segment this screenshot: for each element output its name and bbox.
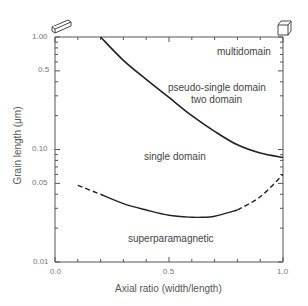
spm-sd-boundary-dashed-right	[237, 174, 283, 210]
x-tick-0.5: 0.5	[163, 267, 174, 276]
y-tick-0.1: 0.10	[32, 144, 48, 153]
cube-icon	[278, 21, 291, 35]
y-tick-0.01: 0.01	[33, 257, 49, 266]
x-tick-0: 0.0	[50, 267, 61, 276]
region-superparamagnetic: superparamagnetic	[128, 233, 214, 244]
region-two-domain: two domain	[191, 94, 242, 105]
spm-sd-boundary-curve	[101, 194, 238, 217]
spm-sd-boundary-dashed-left	[78, 185, 101, 194]
y-axis-title: Grain length (μm)	[12, 101, 23, 191]
x-tick-1: 1.0	[277, 267, 288, 276]
elongated-prism-icon	[52, 20, 71, 33]
y-tick-0.05: 0.05	[32, 178, 48, 187]
x-axis-title: Axial ratio (width/length)	[115, 283, 222, 294]
y-tick-0.5: 0.5	[38, 65, 49, 74]
region-multidomain: multidomain	[217, 46, 271, 57]
region-single-domain: single domain	[144, 151, 206, 162]
region-pseudo-single-domain: pseudo-single domain	[168, 82, 266, 93]
y-tick-1: 1.00	[32, 32, 48, 41]
